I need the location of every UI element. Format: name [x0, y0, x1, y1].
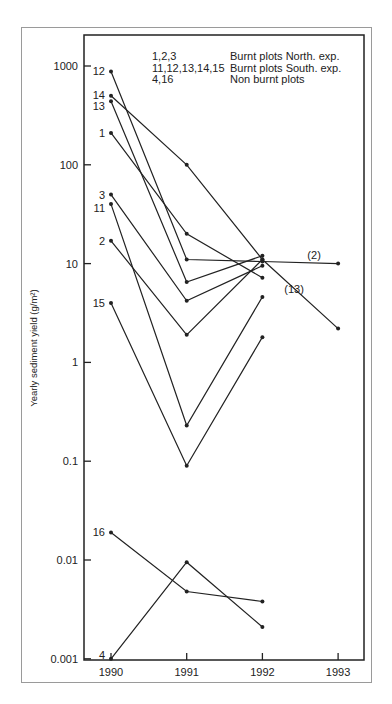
series-line-12	[111, 71, 338, 263]
y-tick-label: 0.001	[50, 653, 78, 665]
y-axis: 10001001010.10.010.001	[50, 60, 91, 665]
data-point-14	[185, 163, 189, 167]
y-tick-label: 0.01	[57, 554, 78, 566]
data-point-3	[185, 299, 189, 303]
series-line-15	[111, 303, 262, 466]
legend-plots: 4,16	[152, 73, 173, 85]
legend-description: Burnt plots South. exp.	[230, 62, 341, 74]
series-label-14: 14	[93, 89, 105, 101]
end-label-12: (2)	[307, 249, 320, 261]
data-point-3	[109, 193, 113, 197]
x-tick-label: 1990	[99, 666, 123, 678]
data-point-15	[185, 464, 189, 468]
legend-description: Non burnt plots	[230, 73, 305, 85]
series-label-16: 16	[93, 526, 105, 538]
legend: 1,2,3Burnt plots North. exp.11,12,13,14,…	[152, 50, 341, 85]
data-point-12	[185, 258, 189, 262]
data-point-2	[185, 333, 189, 337]
x-tick-label: 1991	[174, 666, 198, 678]
data-point-13	[260, 254, 264, 258]
series-label-2: 2	[99, 235, 105, 247]
data-point-16	[109, 530, 113, 534]
series-line-14	[111, 96, 338, 329]
series-label-3: 3	[99, 189, 105, 201]
data-point-4	[109, 657, 113, 661]
end-label-14: (13)	[284, 283, 304, 295]
data-point-12	[336, 262, 340, 266]
y-tick-label: 0.1	[63, 455, 78, 467]
series-line-2	[111, 241, 262, 335]
x-axis: 1990199119921993	[99, 653, 351, 678]
x-tick-label: 1992	[250, 666, 274, 678]
legend-description: Burnt plots North. exp.	[230, 50, 339, 62]
y-tick-label: 1	[72, 356, 78, 368]
y-tick-label: 10	[66, 258, 78, 270]
series-label-12: 12	[93, 65, 105, 77]
series-label-11: 11	[94, 202, 105, 214]
data-point-11	[185, 423, 189, 427]
data-point-2	[260, 258, 264, 262]
data-point-14	[336, 327, 340, 331]
y-tick-label: 100	[60, 159, 78, 171]
data-point-1	[260, 276, 264, 280]
data-point-16	[260, 600, 264, 604]
data-point-2	[109, 239, 113, 243]
data-point-4	[260, 625, 264, 629]
data-point-14	[109, 94, 113, 98]
series-points	[109, 69, 340, 660]
series-label-15: 15	[93, 297, 105, 309]
x-tick-label: 1993	[326, 666, 350, 678]
series-line-4	[111, 562, 262, 659]
data-point-4	[185, 560, 189, 564]
legend-plots: 11,12,13,14,15	[152, 62, 225, 74]
series-line-11	[111, 204, 262, 425]
data-point-15	[260, 335, 264, 339]
legend-plots: 1,2,3	[152, 50, 176, 62]
series-line-3	[111, 195, 262, 301]
series-label-1: 1	[99, 127, 105, 139]
data-point-11	[109, 202, 113, 206]
y-axis-label: Yearly sediment yield (g/m²)	[28, 289, 39, 406]
series-label-4: 4	[99, 649, 105, 661]
data-point-12	[109, 69, 113, 73]
series-lines	[111, 71, 338, 658]
data-point-13	[109, 99, 113, 103]
data-point-11	[260, 295, 264, 299]
data-point-16	[185, 589, 189, 593]
chart: 10001001010.10.010.001 1990199119921993 …	[0, 0, 392, 704]
series-label-13: 13	[93, 100, 105, 112]
data-point-3	[260, 264, 264, 268]
data-point-15	[109, 301, 113, 305]
data-point-1	[109, 131, 113, 135]
data-point-1	[185, 232, 189, 236]
plot-area	[84, 35, 364, 660]
data-point-13	[185, 280, 189, 284]
y-tick-label: 1000	[54, 60, 78, 72]
